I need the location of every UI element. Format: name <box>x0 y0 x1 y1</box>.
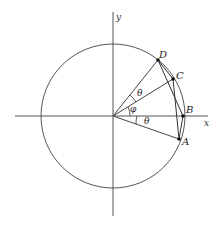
point-B <box>181 114 185 118</box>
arc-theta-lower <box>136 116 137 124</box>
y-axis-label: y <box>115 12 122 22</box>
chord-CA <box>173 79 179 139</box>
label-B: B <box>185 104 193 115</box>
label-theta-upper: θ <box>137 88 143 98</box>
point-C <box>171 77 175 81</box>
point-A <box>177 137 181 141</box>
ray-OC <box>113 79 173 116</box>
arc-theta-upper <box>130 95 136 102</box>
label-C: C <box>176 70 184 81</box>
label-D: D <box>158 49 167 60</box>
x-axis-label: x <box>204 118 209 128</box>
unit-circle-diagram: A B C D θ φ θ x y <box>0 0 220 230</box>
label-A: A <box>181 136 189 147</box>
label-theta-lower: θ <box>144 116 150 126</box>
label-phi: φ <box>130 104 137 114</box>
